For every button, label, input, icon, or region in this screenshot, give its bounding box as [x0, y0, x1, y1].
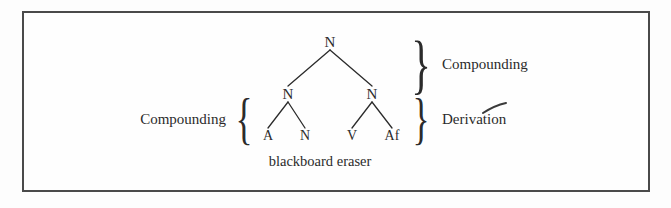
annotation-label-compounding-left: Compounding: [140, 112, 226, 127]
brace-compounding-left: {: [235, 90, 252, 147]
tree-branch: [352, 102, 372, 128]
tree-branch: [288, 102, 305, 128]
tree-node-root: N: [325, 35, 336, 50]
tree-terminal-v: V: [347, 129, 357, 143]
tree-terminal-a: A: [263, 129, 273, 143]
tree-branch: [330, 50, 372, 86]
tree-diagram: [0, 0, 671, 208]
word-label: blackboard eraser: [269, 154, 372, 169]
tree-branch: [372, 102, 392, 128]
annotation-label-compounding-right: Compounding: [442, 57, 528, 72]
tree-node-internal-0: N: [283, 87, 294, 102]
tree-terminal-n: N: [300, 129, 310, 143]
tree-terminal-af: Af: [385, 129, 400, 143]
tree-node-internal-1: N: [367, 87, 378, 102]
tree-branch: [288, 50, 330, 86]
annotation-label-derivation-right: Derivation: [442, 112, 506, 127]
tree-branch: [268, 102, 288, 128]
brace-derivation-right: }: [412, 90, 429, 147]
